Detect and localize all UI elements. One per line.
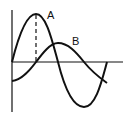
label-a: A [47,9,55,21]
wave-diagram: A B [0,0,127,118]
label-b: B [72,35,79,47]
curve-b [12,43,107,83]
curve-a [12,14,107,107]
